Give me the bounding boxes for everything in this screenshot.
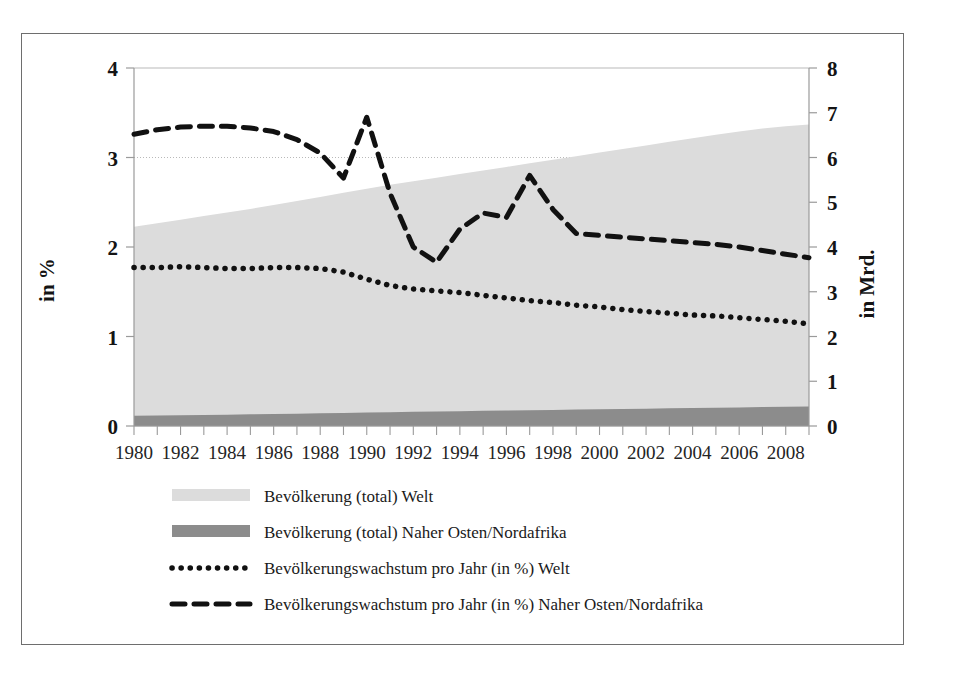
x-tick-label: 1982	[162, 442, 200, 463]
population-growth-chart: 0123401234567819801982198419861988199019…	[22, 34, 903, 644]
y-tick-label-left: 4	[108, 57, 119, 81]
x-tick-label: 1988	[301, 442, 339, 463]
y-tick-label-right: 6	[827, 147, 838, 171]
chart-legend: Bevölkerung (total) WeltBevölkerung (tot…	[172, 487, 703, 614]
y-axis-left-title: in %	[35, 258, 59, 302]
x-tick-label: 1994	[441, 442, 480, 463]
x-tick-label: 2000	[581, 442, 619, 463]
legend-label: Bevölkerungswachstum pro Jahr (in %) Wel…	[264, 559, 570, 578]
legend-label: Bevölkerung (total) Welt	[264, 487, 433, 506]
x-tick-label: 1986	[255, 442, 293, 463]
y-tick-label-left: 3	[108, 147, 119, 171]
y-axis-right-title: in Mrd.	[855, 250, 879, 319]
chart-areas	[134, 124, 809, 426]
legend-label: Bevölkerungswachstum pro Jahr (in %) Nah…	[264, 595, 703, 614]
y-tick-label-right: 2	[827, 326, 838, 350]
chart-figure-frame: 0123401234567819801982198419861988199019…	[21, 33, 904, 645]
y-tick-label-right: 8	[827, 57, 838, 81]
x-tick-label: 1992	[394, 442, 432, 463]
x-tick-label: 2008	[767, 442, 805, 463]
x-tick-label: 2002	[627, 442, 665, 463]
x-tick-label: 1990	[348, 442, 386, 463]
y-tick-label-right: 3	[827, 281, 838, 305]
legend-swatch	[172, 525, 250, 537]
x-tick-label: 1996	[487, 442, 525, 463]
y-tick-label-right: 4	[827, 236, 838, 260]
y-tick-label-right: 5	[827, 191, 838, 215]
y-tick-label-right: 0	[827, 415, 838, 439]
x-tick-label: 1998	[534, 442, 572, 463]
y-tick-label-right: 7	[827, 102, 838, 126]
y-tick-label-left: 1	[108, 326, 119, 350]
x-tick-label: 1984	[208, 442, 247, 463]
x-tick-label: 1980	[115, 442, 153, 463]
y-tick-label-left: 0	[108, 415, 119, 439]
area-series	[134, 124, 809, 426]
x-tick-label: 2006	[720, 442, 758, 463]
legend-swatch	[172, 489, 250, 501]
y-tick-label-right: 1	[827, 370, 838, 394]
legend-label: Bevölkerung (total) Naher Osten/Nordafri…	[264, 523, 567, 542]
x-tick-label: 2004	[674, 442, 713, 463]
y-tick-label-left: 2	[108, 236, 119, 260]
